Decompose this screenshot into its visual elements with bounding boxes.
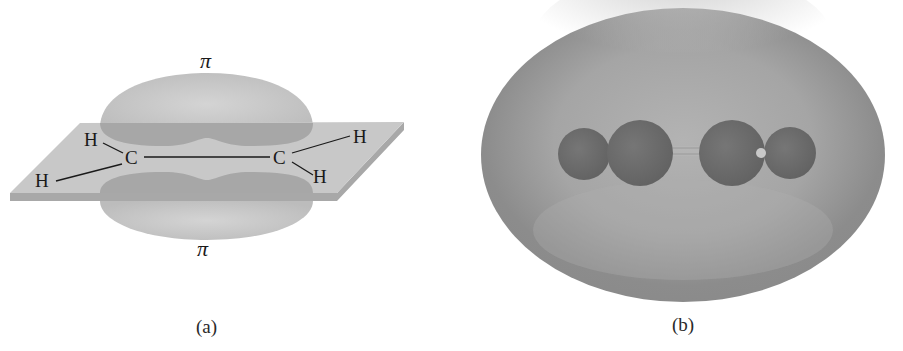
atom-c-left-sphere — [607, 120, 673, 186]
electron-cloud-model — [450, 0, 903, 351]
panel-a-ethylene-pi-bond: C C H H H H π π (a) — [0, 0, 450, 351]
pi-bond-diagram: C C H H H H π π — [0, 0, 450, 351]
caption-b: (b) — [672, 314, 694, 336]
pi-label-bottom: π — [197, 236, 209, 261]
pi-lobe-bottom — [100, 201, 313, 240]
panel-b-electron-density-model: (b) — [450, 0, 903, 351]
pi-label-top: π — [200, 48, 212, 73]
cloud-highlight-lower — [533, 180, 833, 280]
atom-h-bottom-right: H — [313, 166, 327, 187]
atom-c-left: C — [125, 147, 138, 168]
atom-c-right: C — [273, 147, 286, 168]
atom-h-right-highlight — [756, 148, 766, 158]
atom-c-right-sphere — [699, 120, 765, 186]
atom-h-bottom-left: H — [35, 170, 49, 191]
atom-h-top-left: H — [84, 129, 98, 150]
atom-h-right-sphere — [764, 127, 816, 179]
atom-h-left-sphere — [558, 128, 610, 180]
atom-h-top-right: H — [353, 126, 367, 147]
caption-a: (a) — [196, 316, 217, 338]
